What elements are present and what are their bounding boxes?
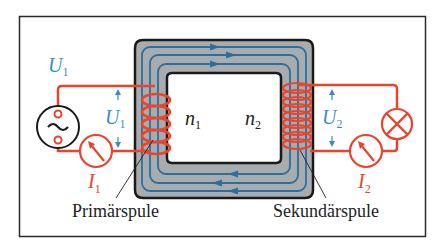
caption-primary-coil: Primärspule	[72, 201, 159, 221]
source-terminal	[55, 137, 62, 144]
source-terminal	[55, 111, 62, 118]
transformer-diagram: U1 U1 I1 n1 n2 U2 I2 Primärspule Sekundä…	[0, 0, 439, 252]
ammeter-primary	[80, 135, 112, 167]
ac-voltage-source	[37, 106, 79, 148]
lamp	[382, 109, 412, 139]
caption-secondary-coil: Sekundärspule	[273, 201, 379, 221]
ammeter-secondary	[350, 135, 382, 167]
